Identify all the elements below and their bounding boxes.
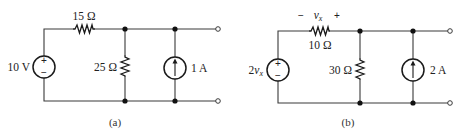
terminal-top-a [216, 27, 221, 32]
current-source-1a-label: 1 A [191, 62, 208, 74]
node-dot [122, 26, 127, 31]
terminal-bottom-b [448, 101, 453, 106]
minus-sign-icon: − [275, 70, 281, 81]
node-dot [122, 98, 127, 103]
plus-sign-icon: + [275, 58, 281, 69]
voltage-source-10v-label: 10 V [8, 61, 31, 73]
wire-top-left-a [44, 29, 73, 56]
current-source-2a-label: 2 A [430, 64, 447, 76]
terminal-bottom-a [216, 99, 221, 104]
node-dot [357, 28, 362, 33]
wire-top-left-b [278, 31, 309, 59]
caption-a: (a) [109, 116, 122, 129]
resistor-25-ohm-label: 25 Ω [94, 61, 117, 73]
node-dot [357, 100, 362, 105]
resistor-30-ohm-label: 30 Ω [329, 64, 352, 76]
terminal-top-b [448, 29, 453, 34]
resistor-15-ohm [73, 25, 95, 33]
vx-label: vx [314, 9, 323, 23]
vx-plus-sign: + [334, 10, 340, 21]
circuit-b: 10 Ω − vx + 30 Ω + − 2vx 2 A (b) [249, 9, 453, 129]
wire-bottom-b [278, 81, 448, 103]
resistor-30-ohm [356, 58, 364, 80]
resistor-15-ohm-label: 15 Ω [73, 10, 96, 22]
node-dot [410, 100, 415, 105]
node-dot [410, 28, 415, 33]
dependent-voltage-source-label: 2vx [249, 64, 264, 78]
resistor-25-ohm [121, 55, 129, 77]
resistor-10-ohm-label: 10 Ω [309, 39, 332, 51]
vx-minus-sign: − [298, 10, 304, 21]
circuit-a: 15 Ω 25 Ω + − 10 V 1 A (a) [8, 10, 221, 129]
caption-b: (b) [342, 116, 355, 129]
circuit-diagrams: 15 Ω 25 Ω + − 10 V 1 A (a) 10 Ω [0, 0, 462, 134]
node-dot [172, 98, 177, 103]
minus-sign-icon: − [41, 67, 47, 78]
resistor-10-ohm [309, 27, 330, 35]
plus-sign-icon: + [41, 55, 47, 66]
wire-bottom-a [44, 78, 216, 101]
node-dot [172, 26, 177, 31]
